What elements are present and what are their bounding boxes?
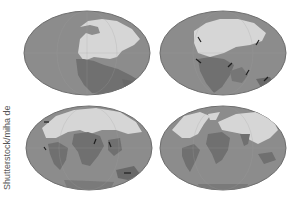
globe-map-early-breakup	[158, 9, 288, 97]
globe-map-continents-separating	[24, 104, 154, 192]
image-credit: Shutterstock/miha de	[2, 60, 12, 190]
globe-map-modern-continents	[158, 104, 288, 192]
globe-map-pangaea	[22, 9, 152, 97]
